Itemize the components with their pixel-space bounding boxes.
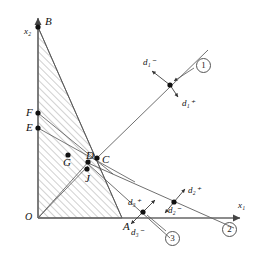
axis-label-x1: x₁	[238, 201, 245, 210]
point-label-C: C	[102, 154, 109, 165]
goal-node-line2	[171, 199, 176, 204]
deviation-arrow-negative-line1	[152, 71, 170, 85]
point-label-D: D	[86, 150, 94, 161]
point-label-F: F	[26, 107, 33, 118]
diagram-canvas: x₁ x₂ O BFEGDCJA d₁⁺d₁⁻d₂⁺d₂⁻d₃⁺d₃⁻ 123	[0, 0, 266, 261]
deviation-label-negative-line1: d₁⁻	[143, 58, 156, 67]
point-marker-F	[35, 110, 40, 115]
line-number-marker-line1: 1	[196, 58, 211, 73]
deviation-label-negative-line3: d₃⁻	[131, 228, 144, 237]
deviation-label-negative-line2: d₂⁻	[168, 206, 181, 215]
point-label-E: E	[26, 122, 33, 133]
axis-label-x2: x₂	[24, 27, 31, 36]
point-marker-C	[94, 155, 99, 160]
point-label-B: B	[45, 16, 52, 27]
leader-line-line1	[174, 68, 194, 81]
deviation-label-positive-line3: d₃⁺	[128, 198, 141, 207]
point-label-A: A	[123, 221, 130, 232]
point-marker-E	[35, 125, 40, 130]
point-marker-J	[84, 166, 89, 171]
line-number-marker-line2: 2	[222, 222, 237, 237]
deviation-label-positive-line1: d₁⁺	[182, 99, 195, 108]
goal-node-line1	[167, 82, 172, 87]
origin-label: O	[25, 212, 32, 222]
line-number-marker-line3: 3	[165, 231, 180, 246]
deviation-label-positive-line2: d₂⁺	[188, 186, 201, 195]
point-label-J: J	[85, 173, 90, 184]
point-label-G: G	[63, 157, 71, 168]
point-marker-B	[35, 24, 40, 29]
goal-node-line3	[140, 209, 145, 214]
